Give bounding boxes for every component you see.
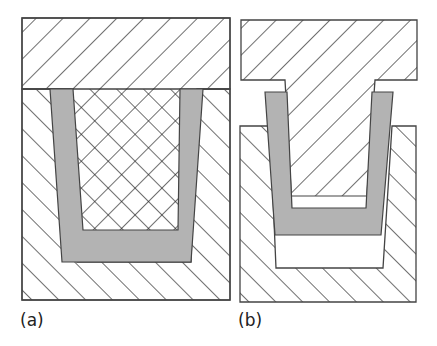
panel-b-label: (b) [238,310,262,330]
diagram-canvas [0,0,437,346]
panel-b [240,20,417,302]
panel-a-label: (a) [20,310,44,330]
panel-a [22,18,230,300]
